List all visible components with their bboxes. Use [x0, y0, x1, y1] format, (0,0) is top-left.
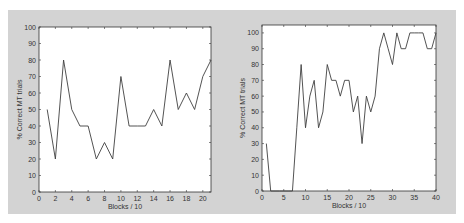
y-tick-label: 50 [251, 108, 259, 115]
x-tick-label: 20 [345, 194, 353, 201]
y-tick-label: 100 [247, 29, 259, 36]
x-tick-label: 35 [410, 194, 418, 201]
x-tick-label: 40 [432, 194, 440, 201]
plot-area [262, 25, 436, 191]
x-tick-label: 10 [302, 194, 310, 201]
y-tick-label: 90 [251, 45, 259, 52]
line-chart-right: 01020304050607080901000510152025303540Bl… [0, 0, 464, 223]
y-axis-label: % Correct MT trials [239, 78, 246, 138]
x-tick-label: 5 [282, 194, 286, 201]
y-tick-label: 40 [251, 124, 259, 131]
y-tick-label: 20 [251, 156, 259, 163]
x-tick-label: 0 [260, 194, 264, 201]
x-tick-label: 15 [323, 194, 331, 201]
y-tick-label: 0 [255, 188, 259, 195]
y-tick-label: 70 [251, 77, 259, 84]
y-tick-label: 10 [251, 172, 259, 179]
y-tick-label: 80 [251, 61, 259, 68]
x-axis-label: Blocks / 10 [332, 202, 366, 209]
y-tick-label: 60 [251, 93, 259, 100]
y-tick-label: 30 [251, 140, 259, 147]
x-tick-label: 30 [389, 194, 397, 201]
x-tick-label: 25 [367, 194, 375, 201]
